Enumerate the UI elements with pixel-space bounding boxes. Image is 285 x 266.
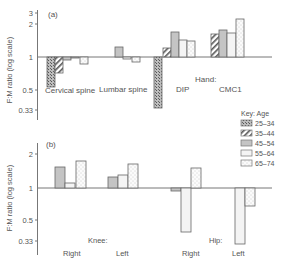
- legend-label: 35–44: [255, 130, 275, 137]
- bar-group-knee-left: [108, 164, 138, 188]
- bar-group-cervical-spine: [47, 57, 88, 87]
- bar: [108, 177, 118, 188]
- bar: [63, 57, 71, 60]
- bar-group-cmc1: [211, 19, 244, 57]
- bar: [47, 57, 55, 87]
- legend-swatch: [241, 160, 252, 166]
- bar: [115, 47, 123, 57]
- bar: [171, 32, 179, 57]
- bar: [118, 175, 128, 188]
- bar-group-hip-left: [235, 188, 255, 244]
- panel-b-ticks: 2 1 0.5 0.33: [18, 150, 38, 246]
- legend: Key: Age 25–34 35–44 45–54 55–64 65–74: [241, 110, 275, 167]
- category-label: Lumbar spine: [99, 85, 148, 94]
- group-label: Hand:: [195, 75, 216, 84]
- bar: [132, 57, 140, 62]
- bar: [219, 30, 227, 57]
- legend-title: Key: Age: [241, 110, 269, 118]
- bar: [179, 40, 187, 57]
- tick-label: 1: [29, 53, 33, 62]
- bar: [235, 188, 245, 244]
- panel-a-ticks: 3 2 1 0.5 0.33: [18, 9, 38, 115]
- bar-group-dip: [154, 32, 195, 108]
- group-label: Knee:: [88, 236, 108, 245]
- bar: [71, 57, 79, 58]
- tick-label: 1: [29, 184, 33, 193]
- bar: [163, 48, 171, 57]
- tick-label: 0.33: [18, 106, 33, 115]
- panel-a-ylabel: F:M ratio (log scale): [5, 36, 14, 103]
- panel-b-ylabel: F:M ratio (log scale): [5, 164, 14, 231]
- legend-swatch: [241, 140, 252, 146]
- panel-b-label: (b): [46, 140, 56, 149]
- group-label: Hip:: [209, 236, 222, 245]
- legend-label: 45–54: [255, 140, 275, 147]
- tick-label: 0.5: [23, 86, 33, 95]
- bar: [236, 19, 244, 57]
- panel-b: (b) F:M ratio (log scale) 2 1 0.5 0.33: [5, 140, 272, 258]
- category-label: Left: [232, 249, 245, 258]
- panel-b-category-labels: Knee: Hip: Right Left Right Left: [63, 236, 245, 258]
- tick-label: 3: [29, 9, 33, 18]
- panel-a-category-labels: Cervical spine Lumbar spine DIP CMC1 Han…: [45, 75, 242, 95]
- category-label: CMC1: [219, 85, 242, 94]
- tick-label: 0.5: [23, 216, 33, 225]
- figure: (a) F:M ratio (log scale) 3 2 1 0.5 0.33: [0, 0, 285, 266]
- category-label: Right: [63, 249, 81, 258]
- tick-label: 2: [29, 20, 33, 29]
- bar: [76, 161, 86, 188]
- category-label: Right: [182, 249, 200, 258]
- bar: [55, 167, 65, 188]
- bar: [123, 57, 131, 59]
- bar: [55, 57, 63, 73]
- bar: [227, 33, 236, 57]
- category-label: Left: [116, 249, 129, 258]
- legend-swatch: [241, 150, 252, 156]
- bar: [181, 188, 191, 232]
- bar: [191, 168, 201, 188]
- legend-swatch: [241, 120, 252, 126]
- category-label: Cervical spine: [45, 86, 96, 95]
- legend-label: 65–74: [255, 160, 275, 167]
- chart-svg: (a) F:M ratio (log scale) 3 2 1 0.5 0.33: [0, 0, 285, 266]
- bar: [154, 57, 162, 108]
- bar-group-hip-right: [171, 168, 201, 232]
- bar: [211, 34, 219, 57]
- bar: [245, 188, 255, 206]
- bar: [80, 57, 88, 64]
- panel-a: (a) F:M ratio (log scale) 3 2 1 0.5 0.33: [5, 9, 272, 120]
- legend-swatch: [241, 130, 252, 136]
- tick-label: 2: [29, 150, 33, 159]
- bar: [171, 188, 181, 191]
- tick-label: 0.33: [18, 237, 33, 246]
- legend-label: 55–64: [255, 150, 275, 157]
- bar: [187, 41, 195, 57]
- bar-group-knee-right: [55, 161, 86, 188]
- category-label: DIP: [176, 85, 189, 94]
- bar: [128, 164, 138, 188]
- bar-group-lumbar-spine: [115, 47, 140, 62]
- bar: [65, 183, 75, 188]
- panel-a-label: (a): [48, 10, 58, 19]
- legend-label: 25–34: [255, 120, 275, 127]
